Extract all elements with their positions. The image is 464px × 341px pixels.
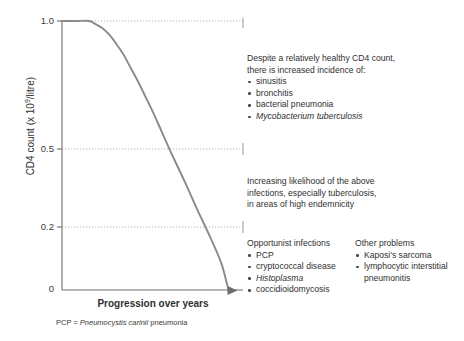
footnote-abbreviation: PCP = Pneumocystis carinii pneumonia bbox=[56, 318, 187, 327]
cd4-decline-chart bbox=[0, 0, 464, 341]
footnote-abbrev: PCP = bbox=[56, 318, 80, 327]
list-item: Mycobacterium tuberculosis bbox=[247, 111, 447, 123]
list-item: bronchitis bbox=[247, 88, 447, 100]
list-item-continuation: pneumonitis bbox=[364, 273, 463, 285]
list-item: sinusitis bbox=[247, 76, 447, 88]
gridlines bbox=[62, 21, 243, 227]
annotation-opportunist-header: Opportunist infections bbox=[247, 238, 351, 250]
list-item: cryptococcal disease bbox=[247, 261, 351, 273]
list-item: PCP bbox=[247, 250, 351, 262]
y-axis-title-post: /litre) bbox=[25, 77, 36, 99]
annotation-other-problems: Other problems Kaposi's sarcoma lymphocy… bbox=[355, 238, 463, 284]
annotation-early-header-line1: Despite a relatively healthy CD4 count, bbox=[247, 53, 447, 65]
annotation-mid-stage: Increasing likelihood of the above infec… bbox=[247, 176, 442, 211]
list-item-text: lymphocytic interstitial bbox=[364, 261, 448, 271]
list-item: Histoplasma bbox=[247, 273, 351, 285]
annotation-other-header: Other problems bbox=[355, 238, 463, 250]
annotation-early-list: sinusitis bronchitis bacterial pneumonia… bbox=[247, 76, 447, 122]
annotation-mid-line3: in areas of high endemnicity bbox=[247, 199, 442, 211]
y-axis-title-exponent: 9 bbox=[24, 99, 31, 103]
y-tick-label-0: 0 bbox=[28, 283, 54, 294]
annotation-early-header-line2: there is increased incidence of: bbox=[247, 65, 447, 77]
annotation-mid-line1: Increasing likelihood of the above bbox=[247, 176, 442, 188]
footnote-italic-term: Pneumocystis carinii bbox=[80, 318, 148, 327]
list-item: lymphocytic interstitialpneumonitis bbox=[355, 261, 463, 284]
annotation-mid-line2: infections, especially tuberculosis, bbox=[247, 188, 442, 200]
list-item: Kaposi's sarcoma bbox=[355, 250, 463, 262]
curve-end-arrow-icon bbox=[228, 286, 238, 295]
list-item: bacterial pneumonia bbox=[247, 99, 447, 111]
chart-figure: 1.0 0.5 0.2 0 CD4 count (x 109/litre) Pr… bbox=[0, 0, 464, 341]
annotation-other-list: Kaposi's sarcoma lymphocytic interstitia… bbox=[355, 250, 463, 285]
annotation-early-stage: Despite a relatively healthy CD4 count, … bbox=[247, 53, 447, 123]
cd4-decline-curve bbox=[62, 21, 229, 290]
y-axis-title-pre: CD4 count (x 10 bbox=[25, 103, 36, 175]
y-axis-title: CD4 count (x 109/litre) bbox=[24, 26, 36, 226]
x-axis-title: Progression over years bbox=[62, 298, 244, 309]
y-tick-label-1-0: 1.0 bbox=[28, 15, 54, 26]
list-item: coccidioidomycosis bbox=[247, 284, 351, 296]
list-item-text: Kaposi's sarcoma bbox=[364, 250, 432, 260]
annotation-opportunist-infections: Opportunist infections PCP cryptococcal … bbox=[247, 238, 351, 296]
footnote-suffix: pneumonia bbox=[148, 318, 187, 327]
annotation-opportunist-list: PCP cryptococcal disease Histoplasma coc… bbox=[247, 250, 351, 296]
